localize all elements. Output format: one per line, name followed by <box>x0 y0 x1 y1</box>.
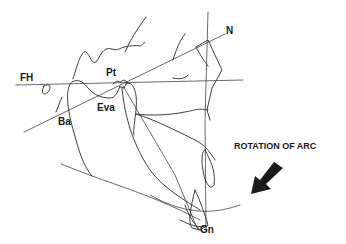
label-rotation-of-arc: ROTATION OF ARC <box>234 141 316 151</box>
orbit-curve <box>173 34 188 79</box>
label-gn: Gn <box>200 225 214 235</box>
nasal-inner <box>196 47 208 66</box>
label-fh: FH <box>20 73 33 83</box>
facial-vertical-line <box>205 12 208 230</box>
label-pt: Pt <box>106 68 116 78</box>
palatal-plane <box>136 109 208 115</box>
label-n: N <box>226 26 233 36</box>
rotation-arrow-icon <box>251 162 283 194</box>
label-eva: Eva <box>97 103 115 113</box>
coronoid <box>126 83 136 135</box>
ear-outline <box>42 85 50 94</box>
cephalometric-diagram: FH N Pt Ba Eva Gn ROTATION OF ARC <box>0 0 346 244</box>
eva-curve <box>122 88 200 210</box>
ramus-outline <box>68 81 120 176</box>
occlusal-line <box>136 114 215 160</box>
pt-point <box>113 80 127 88</box>
nasal-profile <box>196 40 222 120</box>
ba-n-line <box>24 34 225 132</box>
rotation-arc <box>150 195 240 211</box>
label-ba: Ba <box>58 117 71 127</box>
pterygoid-line <box>123 86 198 230</box>
mandibular-plane <box>61 164 200 220</box>
mastoid <box>56 97 62 112</box>
tracing-drawing <box>0 0 346 244</box>
